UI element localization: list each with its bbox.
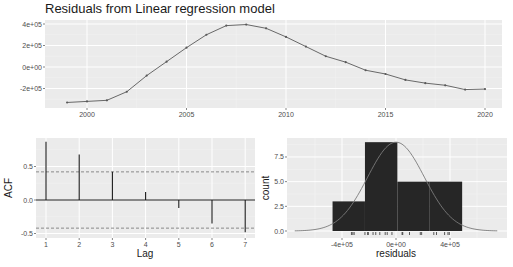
data-point <box>146 75 148 77</box>
data-point <box>404 79 406 81</box>
histogram-panel: 0.02.55.07.5-4e+050e+004e+05 <box>274 138 507 248</box>
plot-background <box>45 20 502 108</box>
chart-canvas: Residuals from Linear regression model 2… <box>0 0 513 267</box>
residuals-line-panel: 20002005201020152020-2e+050e+002e+054e+0… <box>20 20 502 118</box>
x-tick-label: 7 <box>243 241 247 248</box>
histogram-bar <box>365 142 397 231</box>
data-point <box>285 36 287 38</box>
chart-title: Residuals from Linear regression model <box>45 1 275 16</box>
data-point <box>325 55 327 57</box>
data-point <box>106 99 108 101</box>
x-tick-label: 4e+05 <box>440 241 460 248</box>
data-point <box>245 23 247 25</box>
x-tick-label: 6 <box>210 241 214 248</box>
histogram-bar <box>333 201 365 231</box>
x-tick-label: 2020 <box>477 111 493 118</box>
y-tick-label: 0e+00 <box>22 64 42 71</box>
data-point <box>464 88 466 90</box>
residual-diagnostics-figure: Residuals from Linear regression model 2… <box>0 0 513 267</box>
histogram-x-axis-label: residuals <box>376 248 416 259</box>
acf-y-axis-label: ACF <box>3 178 14 198</box>
y-tick-label: 5.0 <box>274 178 284 185</box>
x-tick-label: 2015 <box>378 111 394 118</box>
data-point <box>66 101 68 103</box>
x-tick-label: 2010 <box>278 111 294 118</box>
x-tick-label: 2 <box>77 241 81 248</box>
acf-panel: -0.50.00.51234567 <box>21 138 255 248</box>
data-point <box>86 100 88 102</box>
y-tick-label: -2e+05 <box>20 85 42 92</box>
x-tick-label: 4 <box>144 241 148 248</box>
x-tick-label: 2000 <box>79 111 95 118</box>
x-tick-label: 1 <box>44 241 48 248</box>
data-point <box>444 84 446 86</box>
data-point <box>185 47 187 49</box>
data-point <box>345 61 347 63</box>
y-tick-label: 2.5 <box>274 203 284 210</box>
acf-x-axis-label: Lag <box>137 248 154 259</box>
data-point <box>205 34 207 36</box>
data-point <box>166 61 168 63</box>
y-tick-label: 4e+05 <box>22 21 42 28</box>
x-tick-label: 2005 <box>179 111 195 118</box>
data-point <box>305 45 307 47</box>
x-tick-label: 0e+00 <box>386 241 406 248</box>
data-point <box>424 82 426 84</box>
data-point <box>265 27 267 29</box>
y-tick-label: -0.5 <box>21 230 33 237</box>
data-point <box>225 25 227 27</box>
x-tick-label: -4e+05 <box>331 241 353 248</box>
data-point <box>126 91 128 93</box>
y-tick-label: 2e+05 <box>22 42 42 49</box>
data-point <box>384 73 386 75</box>
y-tick-label: 0.5 <box>23 163 33 170</box>
x-tick-label: 3 <box>110 241 114 248</box>
x-tick-label: 5 <box>177 241 181 248</box>
y-tick-label: 7.5 <box>274 153 284 160</box>
y-tick-label: 0.0 <box>274 228 284 235</box>
data-point <box>365 69 367 71</box>
histogram-bar <box>397 182 429 231</box>
y-tick-label: 0.0 <box>23 197 33 204</box>
data-point <box>484 88 486 90</box>
histogram-y-axis-label: count <box>260 176 271 201</box>
histogram-bar <box>430 182 462 231</box>
